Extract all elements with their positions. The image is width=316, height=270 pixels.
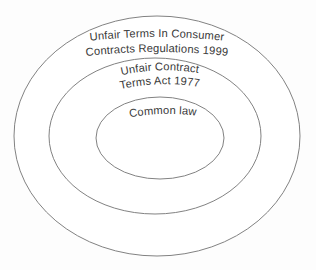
diagram-canvas: Unfair Terms In Consumer Contracts Regul… — [0, 0, 316, 270]
nested-ellipse-diagram: Unfair Terms In Consumer Contracts Regul… — [0, 0, 316, 270]
